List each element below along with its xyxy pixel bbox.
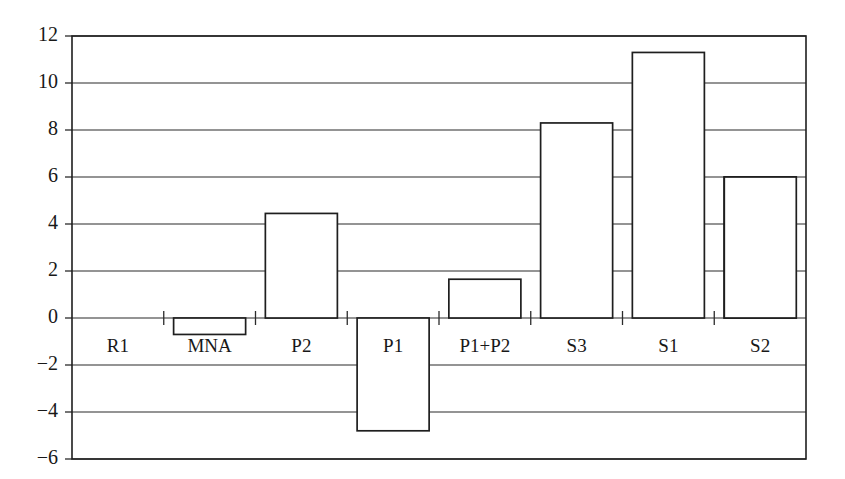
bar-p1[interactable] <box>449 279 521 318</box>
ytick-label-12: 12 <box>38 23 58 45</box>
chart-canvas: 12 10 8 6 4 2 0 −2 −4 −6 <box>0 0 845 479</box>
y-tick-marks <box>65 36 72 459</box>
xtick-label-s2: S2 <box>750 335 770 356</box>
ytick-label-minus4: −4 <box>37 399 58 421</box>
ytick-label-8: 8 <box>48 117 58 139</box>
y-axis-labels: 12 10 8 6 4 2 0 −2 −4 −6 <box>37 23 58 468</box>
ytick-label-minus6: −6 <box>37 446 58 468</box>
bar-s3[interactable] <box>632 52 704 318</box>
bar-mna[interactable] <box>265 213 337 318</box>
xtick-label-p1-plus-p2: P1+P2 <box>459 335 510 356</box>
ytick-label-0: 0 <box>48 305 58 327</box>
bar-r1[interactable] <box>174 318 246 334</box>
xtick-label-r1: R1 <box>107 335 129 356</box>
xtick-label-mna: MNA <box>187 335 232 356</box>
bar-p1-plus-p2[interactable] <box>541 123 613 318</box>
xtick-label-p1: P1 <box>383 335 403 356</box>
bar-s2[interactable] <box>724 177 796 318</box>
xtick-label-p2: P2 <box>291 335 311 356</box>
bar-chart-figure: 12 10 8 6 4 2 0 −2 −4 −6 <box>0 0 845 479</box>
ytick-label-6: 6 <box>48 164 58 186</box>
ytick-label-minus2: −2 <box>37 352 58 374</box>
xtick-label-s1: S1 <box>658 335 678 356</box>
ytick-label-4: 4 <box>48 211 58 233</box>
xtick-label-s3: S3 <box>567 335 587 356</box>
ytick-label-2: 2 <box>48 258 58 280</box>
ytick-label-10: 10 <box>38 70 58 92</box>
